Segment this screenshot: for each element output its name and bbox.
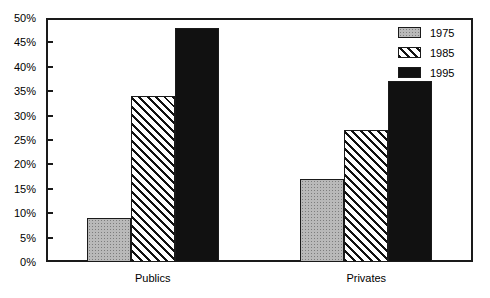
legend: 197519851995 — [398, 24, 464, 84]
y-axis-tick-label: 30% — [14, 110, 36, 122]
bar-chart: 0%5%10%15%20%25%30%35%40%45%50% 19751985… — [0, 0, 490, 298]
bar-privates-1985 — [344, 130, 388, 262]
y-axis-tick-label: 0% — [20, 256, 36, 268]
legend-label: 1995 — [430, 67, 454, 79]
y-axis-tick-mark — [46, 41, 53, 43]
y-axis-tick-label: 40% — [14, 61, 36, 73]
legend-item-1975: 1975 — [398, 24, 464, 41]
y-axis-tick-mark — [46, 90, 53, 92]
y-axis-tick-label: 25% — [14, 134, 36, 146]
legend-label: 1985 — [430, 47, 454, 59]
y-axis-tick-mark — [46, 163, 53, 165]
y-axis-tick-label: 5% — [20, 232, 36, 244]
y-axis-tick-label: 10% — [14, 207, 36, 219]
legend-swatch-icon — [398, 47, 421, 58]
bar-publics-1995 — [175, 28, 219, 262]
bar-publics-1975 — [87, 218, 131, 262]
y-axis-tick-mark — [46, 115, 53, 117]
y-axis-tick-mark — [46, 139, 53, 141]
y-axis-tick-label: 20% — [14, 158, 36, 170]
y-axis-tick-label: 45% — [14, 36, 36, 48]
y-axis: 0%5%10%15%20%25%30%35%40%45%50% — [0, 0, 46, 298]
bar-privates-1975 — [300, 179, 344, 262]
legend-swatch-icon — [398, 67, 421, 78]
bar-privates-1995 — [388, 81, 432, 262]
bar-publics-1985 — [131, 96, 175, 262]
legend-label: 1975 — [430, 27, 454, 39]
x-axis-group-label: Publics — [135, 272, 170, 284]
y-axis-tick-mark — [46, 66, 53, 68]
legend-item-1985: 1985 — [398, 44, 464, 61]
x-axis-group-label: Privates — [346, 272, 386, 284]
legend-item-1995: 1995 — [398, 64, 464, 81]
y-axis-tick-mark — [46, 237, 53, 239]
y-axis-tick-mark — [46, 188, 53, 190]
legend-swatch-icon — [398, 27, 421, 38]
y-axis-tick-label: 50% — [14, 12, 36, 24]
y-axis-tick-mark — [46, 212, 53, 214]
y-axis-tick-label: 35% — [14, 85, 36, 97]
y-axis-tick-label: 15% — [14, 183, 36, 195]
